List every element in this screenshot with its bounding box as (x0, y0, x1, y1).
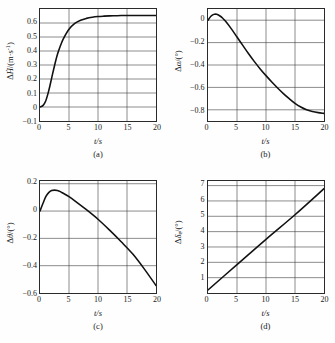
x-tick-label: 10 (262, 296, 270, 304)
chart-panel-a: ΔḢ/(m·s-1) −0.100.10.20.30.40.50.6 0510… (0, 0, 167, 171)
x-tick-label: 15 (291, 296, 299, 304)
x-tick-label: 0 (205, 296, 209, 304)
x-tick-label: 10 (262, 124, 270, 132)
y-axis-ticks-d: 1234567 (182, 172, 207, 294)
y-axis-ticks-b: 0−0.2−0.4−0.6−0.8 (182, 0, 207, 122)
chart-panel-c: Δθ/(°) 0.20−0.2−0.4−0.6 05101520 t/s (c) (0, 172, 167, 343)
chart-panel-b: Δα/(°) 0−0.2−0.4−0.6−0.8 05101520 t/s (b… (168, 0, 335, 171)
y-tick-label: 7 (201, 180, 205, 188)
y-tick-label: −0.6 (22, 290, 37, 298)
plot-svg-b (208, 9, 324, 121)
x-tick-label: 0 (37, 296, 41, 304)
x-tick-label: 10 (94, 296, 102, 304)
x-tick-label: 5 (67, 124, 71, 132)
y-tick-label: −0.2 (22, 234, 37, 242)
y-axis-ticks-c: 0.20−0.2−0.4−0.6 (14, 172, 39, 294)
x-tick-label: 15 (124, 296, 132, 304)
y-tick-label: 0 (33, 206, 37, 214)
x-tick-label: 5 (234, 296, 238, 304)
panel-caption-d: (d) (207, 321, 325, 331)
y-tick-label: 0 (201, 15, 205, 23)
y-tick-label: 3 (201, 243, 205, 251)
gridlines-d (208, 181, 324, 293)
x-tick-label: 20 (321, 296, 329, 304)
y-tick-label: 4 (201, 227, 205, 235)
y-tick-label: −0.2 (190, 38, 205, 46)
panel-caption-c: (c) (39, 321, 157, 331)
x-tick-label: 5 (67, 296, 71, 304)
y-tick-label: −0.6 (190, 84, 205, 92)
y-tick-label: −0.8 (190, 107, 205, 115)
x-tick-label: 15 (124, 124, 132, 132)
plot-area-b (207, 8, 325, 122)
y-tick-label: 0.3 (27, 61, 37, 69)
plot-area-a (39, 8, 157, 122)
y-tick-label: −0.1 (22, 118, 37, 126)
plot-svg-a (40, 9, 156, 121)
x-axis-label-d: t/s (207, 308, 325, 318)
x-axis-ticks-a: 05101520 (39, 123, 157, 135)
y-tick-label: 0 (33, 104, 37, 112)
x-axis-ticks-b: 05101520 (207, 123, 325, 135)
y-tick-label: 0.6 (27, 18, 37, 26)
y-tick-label: 0.4 (27, 47, 37, 55)
y-tick-label: 1 (201, 274, 205, 282)
y-tick-label: 0.1 (27, 90, 37, 98)
plot-svg-d (208, 181, 324, 293)
y-tick-label: 2 (201, 258, 205, 266)
x-tick-label: 20 (321, 124, 329, 132)
gridlines-c (40, 181, 156, 293)
x-tick-label: 0 (205, 124, 209, 132)
plot-area-c (39, 180, 157, 294)
gridlines-a (40, 9, 156, 121)
chart-panel-d: Δδe/(°) 1234567 05101520 t/s (d) (168, 172, 335, 343)
panel-caption-b: (b) (207, 149, 325, 159)
x-tick-label: 15 (291, 124, 299, 132)
x-tick-label: 20 (153, 124, 161, 132)
y-tick-label: −0.4 (190, 61, 205, 69)
x-axis-label-a: t/s (39, 136, 157, 146)
x-axis-label-b: t/s (207, 136, 325, 146)
figure-panel-grid: ΔḢ/(m·s-1) −0.100.10.20.30.40.50.6 0510… (0, 0, 335, 343)
x-axis-label-c: t/s (39, 308, 157, 318)
x-axis-ticks-d: 05101520 (207, 295, 325, 307)
y-tick-label: 0.5 (27, 33, 37, 41)
y-tick-label: 5 (201, 211, 205, 219)
gridlines-b (208, 9, 324, 121)
y-tick-label: 0.2 (27, 75, 37, 83)
panel-caption-a: (a) (39, 149, 157, 159)
x-axis-ticks-c: 05101520 (39, 295, 157, 307)
plot-svg-c (40, 181, 156, 293)
y-tick-label: −0.4 (22, 262, 37, 270)
x-tick-label: 10 (94, 124, 102, 132)
x-tick-label: 0 (37, 124, 41, 132)
x-tick-label: 5 (234, 124, 238, 132)
plot-area-d (207, 180, 325, 294)
x-tick-label: 20 (153, 296, 161, 304)
y-tick-label: 6 (201, 196, 205, 204)
y-tick-label: 0.2 (27, 178, 37, 186)
y-axis-ticks-a: −0.100.10.20.30.40.50.6 (14, 0, 39, 122)
